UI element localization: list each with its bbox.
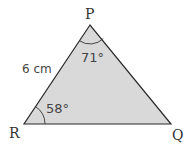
vertex-label-r: R <box>9 125 20 141</box>
vertex-label-p: P <box>85 6 94 22</box>
angle-label-r: 58° <box>46 101 69 116</box>
angle-label-p: 71° <box>81 50 104 65</box>
side-label-pr: 6 cm <box>22 62 52 76</box>
vertex-label-q: Q <box>172 127 183 143</box>
triangle-diagram: P R Q 6 cm 71° 58° <box>0 0 194 144</box>
